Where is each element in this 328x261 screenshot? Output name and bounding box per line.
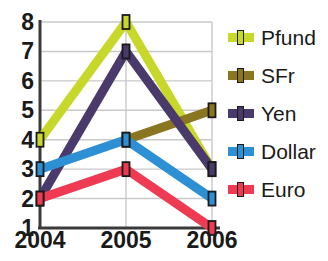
- line-chart: 12345678 200420052006 PfundSFrYenDollarE…: [0, 0, 328, 261]
- legend-item-dollar[interactable]: Dollar: [228, 132, 328, 170]
- legend-item-pfund[interactable]: Pfund: [228, 18, 328, 56]
- legend-item-label: Euro: [261, 179, 305, 200]
- legend-swatch-marker: [237, 182, 244, 197]
- legend-swatch-marker: [237, 30, 244, 45]
- legend-swatch-icon: [228, 71, 254, 80]
- legend-item-label: Dollar: [261, 141, 316, 162]
- x-tick-label: 2006: [186, 229, 237, 252]
- legend-swatch-marker: [237, 106, 244, 121]
- legend-swatch-icon: [228, 109, 254, 118]
- legend-swatch-icon: [228, 33, 254, 42]
- plot-area: 12345678 200420052006: [0, 0, 222, 261]
- legend-item-label: SFr: [261, 65, 295, 86]
- legend-swatch-icon: [228, 185, 254, 194]
- legend: PfundSFrYenDollarEuro: [228, 18, 328, 208]
- x-tick-label: 2005: [100, 229, 151, 252]
- legend-item-label: Yen: [261, 103, 296, 124]
- legend-item-sfr[interactable]: SFr: [228, 56, 328, 94]
- legend-item-label: Pfund: [261, 27, 316, 48]
- x-axis-tick-labels: 200420052006: [0, 0, 222, 261]
- legend-swatch-marker: [237, 68, 244, 83]
- legend-item-euro[interactable]: Euro: [228, 170, 328, 208]
- legend-item-yen[interactable]: Yen: [228, 94, 328, 132]
- legend-swatch-icon: [228, 147, 254, 156]
- legend-swatch-marker: [237, 144, 244, 159]
- x-tick-label: 2004: [14, 229, 65, 252]
